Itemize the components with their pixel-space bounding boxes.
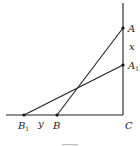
clipped-caption-mark [62,144,78,145]
point-b [55,113,58,116]
label-b1: B1 [17,120,29,132]
label-a1-main: A [127,60,135,71]
point-a [121,26,124,29]
label-a1: A1 [127,60,139,72]
label-y: y [37,118,44,129]
label-b: B [52,120,60,131]
label-x: x [129,41,135,52]
label-a1-sub: 1 [135,65,139,72]
geometry-diagram: A x A1 B1 y B C [0,0,140,146]
label-c: C [125,120,133,131]
segment-a-b [57,28,123,115]
point-b1 [22,113,25,116]
label-b1-sub: 1 [25,125,29,132]
label-a: A [127,23,135,34]
point-a1 [121,63,124,66]
label-b1-main: B [17,120,25,131]
segment-a1-b1 [24,65,123,115]
